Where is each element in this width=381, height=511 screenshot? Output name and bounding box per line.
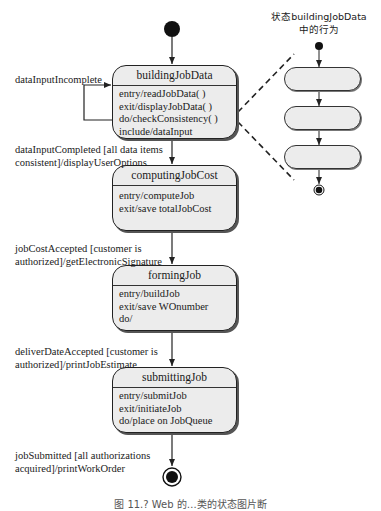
sub-initial-node xyxy=(315,42,323,50)
state-action: include/dataInput xyxy=(119,126,236,139)
state-action: do/checkConsistency( ) xyxy=(119,113,236,126)
substate-pill-2 xyxy=(284,106,361,130)
state-action: entry/computeJob xyxy=(119,190,236,203)
state-action: exit/initiateJob xyxy=(119,403,236,416)
transition-label-3: deliverDateAccepted [customer is authori… xyxy=(15,346,158,371)
state-formingJob: formingJob entry/buildJob exit/save WOnu… xyxy=(112,265,237,331)
state-title: formingJob xyxy=(113,266,236,286)
figure-caption: 图 11.? Web 的…类的状态图片断 xyxy=(0,496,381,511)
state-action: do/place on JobQueue xyxy=(119,415,236,428)
state-action: exit/save WOnumber xyxy=(119,301,236,314)
state-computingJobCost: computingJobCost entry/computeJob exit/s… xyxy=(112,165,237,231)
state-buildingJobData: buildingJobData entry/readJobData( ) exi… xyxy=(112,65,237,139)
state-action: do/ xyxy=(119,313,236,326)
substate-view-title: 状态buildingJobData 中的行为 xyxy=(259,10,379,36)
state-action: entry/buildJob xyxy=(119,288,236,301)
transition-label-4: jobSubmitted [all authorizations acquire… xyxy=(15,450,150,475)
transition-label-1: dataInputCompleted [all data items consi… xyxy=(15,144,163,169)
state-action: entry/submitJob xyxy=(119,390,236,403)
substate-pill-1 xyxy=(284,67,361,91)
initial-node xyxy=(164,21,180,37)
transition-label-self-loop: dataInputIncomplete xyxy=(15,74,102,87)
transition-label-2: jobCostAccepted [customer is authorized]… xyxy=(15,243,162,268)
state-action: entry/readJobData( ) xyxy=(119,88,236,101)
state-title: buildingJobData xyxy=(113,66,236,86)
state-submittingJob: submittingJob entry/submitJob exit/initi… xyxy=(112,367,237,433)
state-action: exit/save totalJobCost xyxy=(119,203,236,216)
self-loop-arrow xyxy=(84,85,112,120)
state-action: exit/displayJobData( ) xyxy=(119,101,236,114)
substate-pill-3 xyxy=(284,145,361,169)
